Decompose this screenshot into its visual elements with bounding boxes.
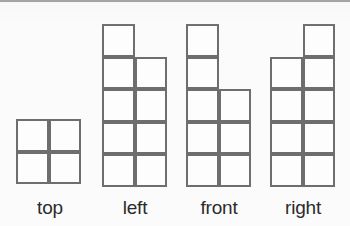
view-label-right: right bbox=[253, 197, 350, 219]
top-divider-rule bbox=[0, 0, 350, 2]
grid-cell bbox=[270, 154, 303, 187]
grid-cell bbox=[186, 122, 219, 155]
grid-cell bbox=[186, 154, 219, 187]
grid-cell bbox=[135, 57, 168, 90]
diagram-canvas: topleftfrontright bbox=[0, 0, 350, 226]
grid-cell bbox=[102, 24, 135, 57]
view-figure-right bbox=[270, 24, 335, 187]
grid-cell bbox=[270, 122, 303, 155]
grid-cell bbox=[303, 122, 336, 155]
grid-cell bbox=[219, 154, 252, 187]
grid-cell bbox=[303, 154, 336, 187]
grid-cell bbox=[219, 122, 252, 155]
grid-cell bbox=[186, 24, 219, 57]
grid-cell bbox=[186, 57, 219, 90]
view-figure-front bbox=[186, 24, 251, 187]
grid-cell bbox=[16, 119, 49, 152]
view-figure-top bbox=[16, 119, 81, 184]
grid-cell bbox=[102, 57, 135, 90]
grid-cell bbox=[135, 89, 168, 122]
grid-cell bbox=[135, 154, 168, 187]
grid-cell bbox=[49, 119, 82, 152]
grid-cell bbox=[270, 57, 303, 90]
grid-cell bbox=[102, 89, 135, 122]
grid-cell bbox=[270, 89, 303, 122]
view-figure-left bbox=[102, 24, 167, 187]
grid-cell bbox=[186, 89, 219, 122]
grid-cell bbox=[303, 24, 336, 57]
grid-cell bbox=[303, 57, 336, 90]
grid-cell bbox=[135, 122, 168, 155]
grid-cell bbox=[16, 152, 49, 185]
grid-cell bbox=[49, 152, 82, 185]
grid-cell bbox=[102, 154, 135, 187]
grid-cell bbox=[303, 89, 336, 122]
grid-cell bbox=[102, 122, 135, 155]
grid-cell bbox=[219, 89, 252, 122]
